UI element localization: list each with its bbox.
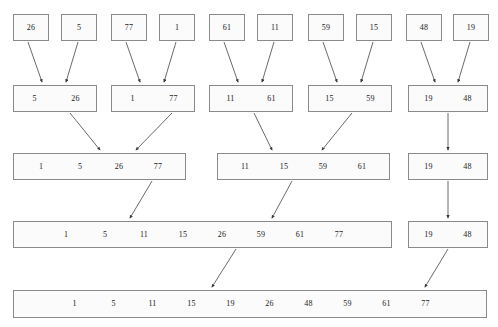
value-cell: 77 <box>139 163 178 171</box>
level-1-singletons-box-2: 5 <box>61 14 97 41</box>
level-1-singletons-box-8: 15 <box>356 14 392 41</box>
value-cell: 26 <box>14 24 48 32</box>
value-cell: 48 <box>448 231 487 239</box>
value-cell: 11 <box>133 300 172 308</box>
value-cell: 11 <box>258 24 292 32</box>
value-cell: 1 <box>112 95 153 103</box>
value-cell: 15 <box>357 24 391 32</box>
level-2-pairs-box-2: 177 <box>111 85 195 112</box>
value-cell: 61 <box>251 95 292 103</box>
cell-group: 26 <box>14 24 48 32</box>
arrow-19-to-pair5 <box>458 42 470 82</box>
level-1-singletons-box-4: 1 <box>159 14 195 41</box>
cell-group: 77 <box>112 24 146 32</box>
level-3-quads-box-3: 1948 <box>408 153 488 180</box>
cell-group: 1948 <box>409 163 487 171</box>
level-2-pairs-box-5: 1948 <box>408 85 488 112</box>
level-1-singletons-box-1: 26 <box>13 14 49 41</box>
value-cell: 15 <box>265 163 304 171</box>
value-cell: 48 <box>289 300 328 308</box>
arrow-1-to-pair2 <box>164 42 176 82</box>
cell-group: 1948 <box>409 95 487 103</box>
cell-group: 1559 <box>309 95 391 103</box>
level-1-singletons-box-6: 11 <box>257 14 293 41</box>
level-1-singletons-box-9: 48 <box>406 14 442 41</box>
value-cell: 61 <box>343 163 382 171</box>
value-cell: 48 <box>448 163 487 171</box>
cell-group: 1161 <box>210 95 292 103</box>
arrow-eight-to-final <box>212 249 236 287</box>
level-2-pairs-box-3: 1161 <box>209 85 293 112</box>
value-cell: 26 <box>250 300 289 308</box>
value-cell: 1 <box>47 231 86 239</box>
arrow-pair1-to-quad1 <box>70 113 100 150</box>
arrow-pair3-to-quad2 <box>254 113 272 150</box>
value-cell: 61 <box>281 231 320 239</box>
level-2-pairs-box-4: 1559 <box>308 85 392 112</box>
value-cell: 5 <box>14 95 55 103</box>
value-cell: 15 <box>172 300 211 308</box>
value-cell: 48 <box>448 95 487 103</box>
value-cell: 15 <box>309 95 350 103</box>
value-cell: 5 <box>62 24 96 32</box>
cell-group: 11 <box>258 24 292 32</box>
arrow-48-to-pair5 <box>421 42 435 82</box>
value-cell: 1 <box>160 24 194 32</box>
cell-group: 15 <box>357 24 391 32</box>
value-cell: 48 <box>407 24 441 32</box>
value-cell: 59 <box>242 231 281 239</box>
cell-group: 1948 <box>409 231 487 239</box>
arrow-61-to-pair3 <box>224 42 238 82</box>
cell-group: 59 <box>309 24 343 32</box>
arrow-quad2-to-eight <box>272 181 292 218</box>
cell-group: 151115192648596177 <box>55 300 445 308</box>
value-cell: 11 <box>210 95 251 103</box>
value-cell: 11 <box>125 231 164 239</box>
value-cell: 19 <box>409 231 448 239</box>
arrow-11-to-pair3 <box>262 42 274 82</box>
value-cell: 61 <box>210 24 244 32</box>
value-cell: 5 <box>61 163 100 171</box>
cell-group: 1 <box>160 24 194 32</box>
value-cell: 19 <box>454 24 488 32</box>
cell-group: 5 <box>62 24 96 32</box>
arrow-right-to-final <box>425 249 448 287</box>
value-cell: 11 <box>226 163 265 171</box>
level-5-final-box-1: 151115192648596177 <box>13 290 487 318</box>
arrow-pair4-to-quad2 <box>322 113 352 150</box>
value-cell: 1 <box>22 163 61 171</box>
cell-group: 15111526596177 <box>47 231 359 239</box>
value-cell: 59 <box>350 95 391 103</box>
value-cell: 77 <box>406 300 445 308</box>
value-cell: 59 <box>328 300 367 308</box>
cell-group: 177 <box>112 95 194 103</box>
level-1-singletons-box-10: 19 <box>453 14 489 41</box>
level-3-quads-box-1: 152677 <box>13 153 186 180</box>
level-3-quads-box-2: 11155961 <box>217 153 390 180</box>
arrow-quad1-to-eight <box>130 181 152 218</box>
arrow-59-to-pair4 <box>323 42 337 82</box>
value-cell: 19 <box>409 163 448 171</box>
cell-group: 11155961 <box>226 163 382 171</box>
level-4-eight-box-1: 15111526596177 <box>13 221 392 248</box>
value-cell: 59 <box>309 24 343 32</box>
cell-group: 48 <box>407 24 441 32</box>
cell-group: 61 <box>210 24 244 32</box>
level-2-pairs-box-1: 526 <box>13 85 97 112</box>
value-cell: 61 <box>367 300 406 308</box>
value-cell: 5 <box>86 231 125 239</box>
value-cell: 5 <box>94 300 133 308</box>
arrow-26-to-pair1 <box>28 42 42 82</box>
level-4-eight-box-2: 1948 <box>408 221 488 248</box>
value-cell: 77 <box>153 95 194 103</box>
arrow-77-to-pair2 <box>126 42 140 82</box>
value-cell: 59 <box>304 163 343 171</box>
value-cell: 1 <box>55 300 94 308</box>
cell-group: 152677 <box>22 163 178 171</box>
level-1-singletons-box-5: 61 <box>209 14 245 41</box>
value-cell: 77 <box>112 24 146 32</box>
value-cell: 26 <box>203 231 242 239</box>
value-cell: 19 <box>409 95 448 103</box>
value-cell: 26 <box>55 95 96 103</box>
cell-group: 19 <box>454 24 488 32</box>
